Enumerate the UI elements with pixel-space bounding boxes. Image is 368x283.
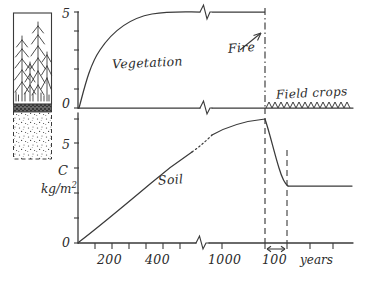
x-tick-label-1000: 1000 [208,252,241,267]
y-axis-unit-text: kg/m [41,182,71,196]
x-tick-label-400: 400 [145,252,170,267]
y-tick-label-lower-0: 0 [62,235,70,250]
y-tick-label-lower-5: 5 [62,137,70,152]
y-tick-label-upper-0: 0 [62,96,70,111]
y-axis-unit-label: kg/m2 [41,180,77,196]
field-crops-hatch [266,102,350,108]
vegetation-label: Vegetation [112,53,183,71]
interval-arrow-100 [267,246,285,252]
figure-canvas: Vegetation Soil Fire Field crops C kg/m2… [0,0,368,283]
axis-lines [78,12,353,249]
canopy-box [14,13,52,104]
y-axis-unit-exponent: 2 [71,180,76,190]
soil-label: Soil [158,171,184,188]
soil-curve [79,119,352,242]
figure-drawing [0,0,368,283]
x-ticks [95,243,333,249]
zero-line-break-mark [200,101,212,114]
fire-label: Fire [228,39,256,56]
y-axis-symbol-label: C [58,163,68,178]
mineral-soil-layer [14,111,52,159]
x-axis-break-mark [196,236,209,249]
x-tick-label-200: 200 [97,252,122,267]
x-axis-unit-label: years [300,253,333,267]
y-tick-label-upper-5: 5 [62,6,70,21]
x-tick-label-100: 100 [262,252,287,267]
forest-profile-inset [14,13,52,159]
